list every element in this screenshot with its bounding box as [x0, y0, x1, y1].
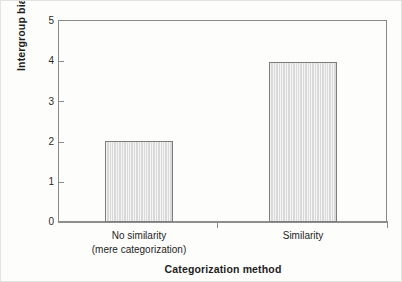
y-tick-label-5: 5: [34, 16, 54, 26]
x-category-label-no-similarity: No similarity (mere categorization): [59, 229, 219, 256]
x-tick-mark-separator: [217, 222, 218, 228]
y-tick-label-4: 4: [34, 56, 54, 66]
x-category-label-line1: No similarity: [59, 229, 219, 243]
bar-no-similarity: [105, 141, 173, 222]
y-tick-label-1: 1: [34, 177, 54, 187]
y-axis-title: Intergroup bias: [14, 0, 28, 71]
x-category-label-similarity: Similarity: [223, 229, 383, 243]
y-tick-label-0: 0: [34, 217, 54, 227]
chart-figure: Intergroup bias 5 4 3 2 1 0 No similarit…: [0, 0, 402, 282]
x-category-label-line2: (mere categorization): [59, 243, 219, 257]
x-category-label-line1: Similarity: [223, 229, 383, 243]
y-tick-label-3: 3: [34, 97, 54, 107]
y-tick-label-2: 2: [34, 137, 54, 147]
x-tick-mark-right: [387, 222, 388, 228]
bar-similarity: [269, 62, 337, 221]
x-axis-title: Categorization method: [58, 263, 388, 275]
